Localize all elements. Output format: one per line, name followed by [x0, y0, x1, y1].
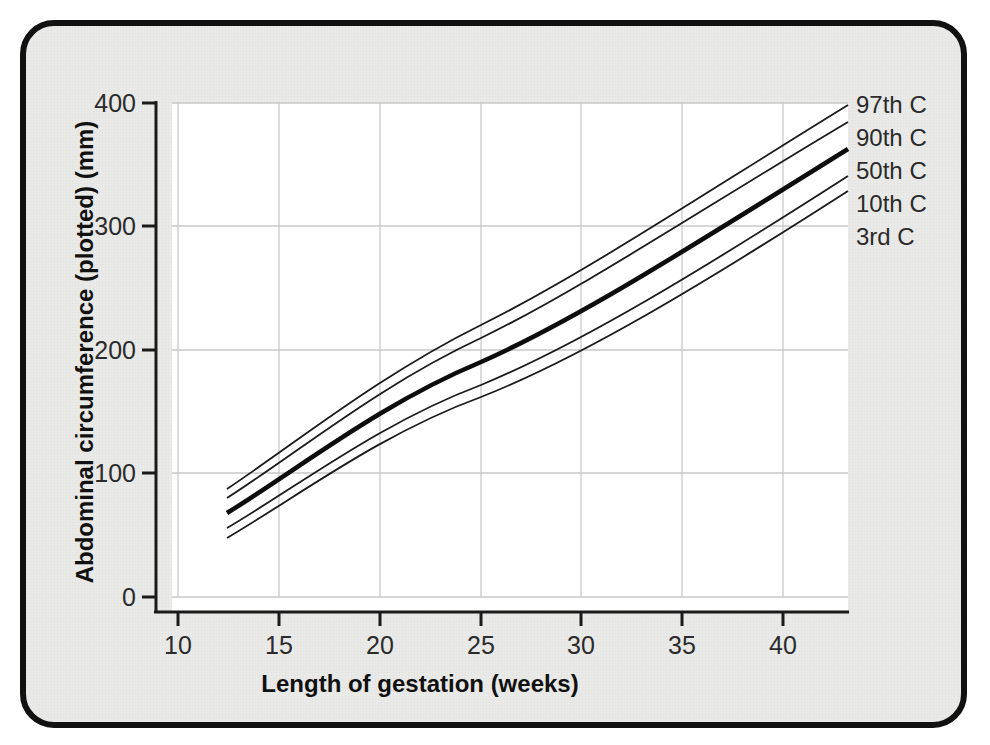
x-tick-label-30: 30: [567, 631, 595, 659]
x-tick-label-20: 20: [366, 631, 394, 659]
x-axis-title: Length of gestation (weeks): [261, 670, 578, 697]
y-tick-label-300: 300: [94, 212, 136, 240]
growth-chart: 400 300 200 100 0 10 15 20 25 30 35 40 L…: [0, 0, 990, 745]
x-tick-label-40: 40: [769, 631, 797, 659]
y-tick-label-400: 400: [94, 89, 136, 117]
x-tick-label-10: 10: [164, 631, 192, 659]
y-tick-labels: 400 300 200 100 0: [94, 89, 136, 611]
legend-label-90th: 90th C: [856, 124, 927, 151]
x-tick-labels: 10 15 20 25 30 35 40: [164, 631, 797, 659]
y-tick-label-200: 200: [94, 336, 136, 364]
x-tick-label-15: 15: [265, 631, 293, 659]
chart-page: 400 300 200 100 0 10 15 20 25 30 35 40 L…: [0, 0, 990, 745]
legend-label-50th: 50th C: [856, 157, 927, 184]
y-tick-label-100: 100: [94, 459, 136, 487]
legend-label-3rd: 3rd C: [856, 223, 915, 250]
legend-label-10th: 10th C: [856, 190, 927, 217]
y-axis-title: Abdominal circumference (plotted) (mm): [71, 121, 98, 584]
legend-label-97th: 97th C: [856, 91, 927, 118]
y-tick-label-0: 0: [122, 583, 136, 611]
x-tick-label-25: 25: [467, 631, 495, 659]
x-tick-label-35: 35: [668, 631, 696, 659]
legend: 97th C 90th C 50th C 10th C 3rd C: [856, 91, 927, 250]
plot-background: [172, 103, 848, 612]
